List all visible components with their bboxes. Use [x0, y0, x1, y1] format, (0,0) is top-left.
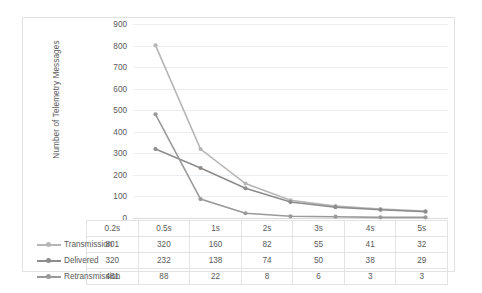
- table-cell: 320: [138, 237, 190, 253]
- y-axis-tick-label: 300: [113, 149, 127, 158]
- series-marker: [153, 147, 157, 151]
- x-axis-tick-label: 3s: [293, 221, 345, 237]
- table-cell: 3: [344, 269, 396, 285]
- legend-item-transmission: Transmission: [35, 237, 87, 253]
- table-body: Transmission80132016082554132Delivered32…: [35, 237, 448, 285]
- y-axis-tick-label: 200: [113, 170, 127, 179]
- series-marker: [243, 211, 247, 215]
- series-marker: [153, 112, 157, 116]
- series-marker: [378, 208, 382, 212]
- table-cell: 50: [293, 253, 345, 269]
- table-row: Transmission80132016082554132: [35, 237, 448, 253]
- series-marker: [243, 181, 247, 185]
- table-cell: 88: [138, 269, 190, 285]
- table-header-row: 0.2s0.5s1s2s3s4s5s: [35, 221, 448, 237]
- table-cell: 32: [396, 237, 448, 253]
- series-marker: [153, 43, 157, 47]
- table-cell: 29: [396, 253, 448, 269]
- x-axis-tick-label: 0.2s: [87, 221, 139, 237]
- legend-line-icon: [37, 241, 61, 248]
- y-axis-tick-label: 100: [113, 192, 127, 201]
- series-marker: [378, 215, 382, 219]
- chart-frame: Number of Telemetry Messages 90080070060…: [22, 17, 455, 272]
- x-axis-tick-label: 5s: [396, 221, 448, 237]
- table-cell: 232: [138, 253, 190, 269]
- table-cell: 8: [241, 269, 293, 285]
- series-marker: [288, 214, 292, 218]
- series-marker: [243, 186, 247, 190]
- plot-area: 9008007006005004003002001000: [133, 24, 448, 218]
- legend-line-icon: [37, 273, 61, 280]
- data-table: 0.2s0.5s1s2s3s4s5s Transmission801320160…: [35, 220, 448, 285]
- x-axis-tick-label: 2s: [241, 221, 293, 237]
- table-cell: 138: [190, 253, 242, 269]
- table-cell: 82: [241, 237, 293, 253]
- series-marker: [333, 205, 337, 209]
- series-marker: [198, 147, 202, 151]
- table-cell: 38: [344, 253, 396, 269]
- y-axis-title: Number of Telemetry Messages: [52, 20, 61, 180]
- x-axis-tick-label: 1s: [190, 221, 242, 237]
- table-cell: 3: [396, 269, 448, 285]
- series-line: [156, 45, 426, 211]
- series-marker: [333, 215, 337, 219]
- table-row: Delivered32023213874503829: [35, 253, 448, 269]
- series-marker: [423, 210, 427, 214]
- x-axis-tick-label: 4s: [344, 221, 396, 237]
- y-axis-tick-label: 900: [113, 20, 127, 29]
- y-axis-tick-label: 800: [113, 41, 127, 50]
- table-cell: 6: [293, 269, 345, 285]
- legend-line-icon: [37, 257, 61, 264]
- series-lines: [133, 24, 448, 218]
- table-corner-cell: [35, 221, 87, 237]
- legend-item-delivered: Delivered: [35, 253, 87, 269]
- table-cell: 74: [241, 253, 293, 269]
- table-cell: 55: [293, 237, 345, 253]
- y-axis-tick-label: 600: [113, 84, 127, 93]
- legend-label: Delivered: [64, 256, 99, 265]
- y-axis-tick-label: 400: [113, 127, 127, 136]
- legend-item-retransmission: Retransmission: [35, 269, 87, 285]
- table-row: Retransmission48188228633: [35, 269, 448, 285]
- y-axis-tick-label: 500: [113, 106, 127, 115]
- series-marker: [288, 200, 292, 204]
- y-axis-tick-label: 700: [113, 63, 127, 72]
- table-cell: 22: [190, 269, 242, 285]
- table-cell: 41: [344, 237, 396, 253]
- table-cell: 160: [190, 237, 242, 253]
- series-marker: [198, 166, 202, 170]
- series-marker: [198, 197, 202, 201]
- series-marker: [423, 215, 427, 219]
- x-axis-tick-label: 0.5s: [138, 221, 190, 237]
